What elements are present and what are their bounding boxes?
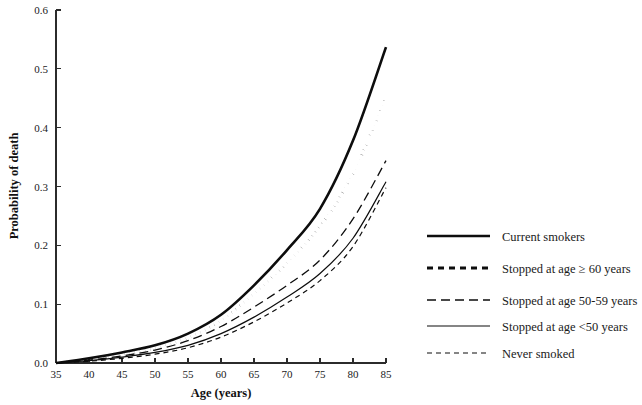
legend-item-0: Current smokers (427, 230, 585, 244)
y-tick-label: 0.0 (34, 357, 48, 369)
legend: Current smokersStopped at age ≥ 60 years… (427, 230, 638, 361)
y-tick-label: 0.4 (34, 122, 48, 134)
x-tick-label: 85 (381, 368, 393, 380)
legend-item-1: Stopped at age ≥ 60 years (427, 262, 631, 276)
y-tick-label: 0.3 (34, 181, 48, 193)
legend-item-4: Never smoked (427, 347, 575, 361)
series-line-3 (56, 182, 386, 363)
y-tick-label: 0.5 (34, 63, 48, 75)
legend-label: Current smokers (502, 230, 585, 244)
tick-marks-layer (56, 10, 386, 363)
legend-label: Stopped at age 50-59 years (502, 294, 638, 308)
y-tick-label: 0.1 (34, 298, 48, 310)
series-line-2 (56, 161, 386, 363)
y-tick-label: 0.2 (34, 239, 48, 251)
y-tick-labels: 0.00.10.20.30.40.50.6 (34, 4, 48, 369)
figure-container: 3540455055606570758085 0.00.10.20.30.40.… (0, 0, 642, 405)
legend-label: Stopped at age ≥ 60 years (502, 262, 631, 276)
series-line-0 (56, 47, 386, 363)
x-tick-label: 75 (315, 368, 327, 380)
x-tick-label: 40 (84, 368, 96, 380)
x-tick-label: 70 (282, 368, 294, 380)
x-tick-label: 65 (249, 368, 261, 380)
legend-label: Never smoked (502, 347, 575, 361)
probability-of-death-line-chart: 3540455055606570758085 0.00.10.20.30.40.… (0, 0, 642, 405)
x-tick-labels: 3540455055606570758085 (51, 368, 393, 380)
legend-item-3: Stopped at age <50 years (427, 320, 628, 334)
x-tick-label: 80 (348, 368, 360, 380)
y-tick-label: 0.6 (34, 4, 48, 16)
series-lines-layer (56, 47, 386, 363)
axes-layer (56, 10, 386, 363)
x-tick-label: 35 (51, 368, 63, 380)
y-axis-title: Probability of death (7, 133, 21, 240)
x-tick-label: 55 (183, 368, 195, 380)
x-tick-label: 45 (117, 368, 129, 380)
legend-label: Stopped at age <50 years (502, 320, 628, 334)
x-tick-label: 50 (150, 368, 162, 380)
series-line-4 (56, 188, 386, 363)
x-tick-label: 60 (216, 368, 228, 380)
x-axis-title: Age (years) (191, 386, 252, 400)
series-line-1 (56, 97, 386, 363)
legend-item-2: Stopped at age 50-59 years (427, 294, 638, 308)
